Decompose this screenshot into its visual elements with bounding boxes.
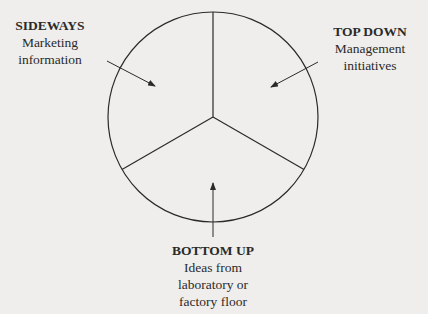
label-top-down: TOP DOWN Management initiatives [320, 23, 420, 74]
bottom-up-line-1: Ideas from [158, 259, 268, 276]
sideways-line-2: information [14, 51, 86, 68]
label-sideways: SIDEWAYS Marketing information [14, 17, 86, 68]
top-down-heading: TOP DOWN [320, 23, 420, 40]
divider-lower-left [122, 117, 213, 170]
sideways-heading: SIDEWAYS [14, 17, 86, 34]
bottom-up-heading: BOTTOM UP [158, 242, 268, 259]
top-down-line-2: initiatives [320, 57, 420, 74]
sideways-line-1: Marketing [14, 34, 86, 51]
bottom-up-line-3: factory floor [158, 293, 268, 310]
divider-lower-right [213, 117, 304, 170]
bottom-up-line-2: laboratory or [158, 276, 268, 293]
label-bottom-up: BOTTOM UP Ideas from laboratory or facto… [158, 242, 268, 310]
arrow-top-down [271, 62, 318, 87]
top-down-line-1: Management [320, 40, 420, 57]
